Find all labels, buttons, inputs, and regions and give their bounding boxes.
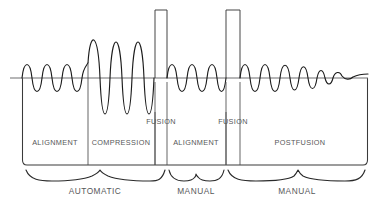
fusion-pulse-2 — [226, 10, 240, 78]
fusion-pulse-1 — [155, 10, 167, 78]
brace-automatic — [26, 170, 165, 181]
phase-label-alignment-2: ALIGNMENT — [173, 138, 219, 147]
phase-label-compression: COMPRESSION — [92, 138, 151, 147]
phase-label-alignment-1: ALIGNMENT — [32, 138, 78, 147]
phase-label-fusion-2: FUSION — [218, 117, 248, 126]
group-label-automatic: AUTOMATIC — [69, 186, 122, 196]
container-outline — [23, 78, 368, 165]
group-label-manual-2: MANUAL — [278, 186, 316, 196]
waveform-phase-diagram: ALIGNMENT COMPRESSION FUSION ALIGNMENT F… — [0, 0, 380, 207]
brace-manual-1 — [169, 170, 224, 181]
group-label-manual-1: MANUAL — [177, 186, 215, 196]
phase-label-fusion-1: FUSION — [146, 117, 176, 126]
brace-manual-2 — [228, 170, 365, 181]
waveform-compression — [88, 40, 154, 114]
waveform-alignment-1 — [22, 63, 88, 92]
phase-label-postfusion: POSTFUSION — [275, 138, 326, 147]
diagram-canvas: ALIGNMENT COMPRESSION FUSION ALIGNMENT F… — [0, 0, 380, 207]
